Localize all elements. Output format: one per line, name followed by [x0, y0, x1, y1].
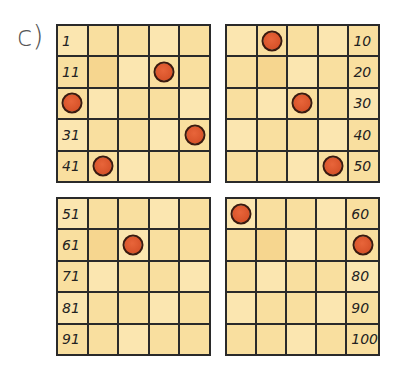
- grid-cell[interactable]: [119, 230, 148, 259]
- grid-cell[interactable]: [257, 199, 285, 228]
- grid-cell[interactable]: [180, 152, 209, 181]
- grid-cell[interactable]: [180, 57, 209, 86]
- grid-cell[interactable]: [150, 199, 179, 228]
- grid-cell[interactable]: [119, 325, 148, 354]
- grid-cell[interactable]: 80: [347, 262, 378, 291]
- grid-cell[interactable]: [119, 26, 148, 55]
- grid-cell[interactable]: [317, 230, 345, 259]
- grid-cell[interactable]: [180, 230, 209, 259]
- grid-cell[interactable]: [150, 230, 179, 259]
- grid-cell[interactable]: [180, 89, 209, 118]
- grid-cell[interactable]: 50: [349, 152, 378, 181]
- grid-cell[interactable]: [89, 230, 118, 259]
- grid-cell[interactable]: [89, 120, 118, 149]
- grid-cell[interactable]: [119, 89, 148, 118]
- grid-cell[interactable]: [227, 293, 255, 322]
- grid-cell[interactable]: [317, 325, 345, 354]
- grid-cell[interactable]: [319, 120, 348, 149]
- grid-cell[interactable]: [150, 57, 179, 86]
- grid-cell[interactable]: [288, 89, 317, 118]
- grid-cell[interactable]: [119, 293, 148, 322]
- grid-cell[interactable]: [288, 152, 317, 181]
- grid-cell[interactable]: [258, 26, 287, 55]
- grid-cell[interactable]: [227, 26, 256, 55]
- grid-cell[interactable]: [89, 152, 118, 181]
- grid-cell[interactable]: [227, 152, 256, 181]
- grid-cell[interactable]: [227, 230, 255, 259]
- grid-cell[interactable]: [319, 26, 348, 55]
- grid-cell[interactable]: [258, 57, 287, 86]
- grid-cell[interactable]: [258, 120, 287, 149]
- grid-cell[interactable]: [119, 262, 148, 291]
- grid-cell[interactable]: [347, 230, 378, 259]
- grid-cell[interactable]: [319, 57, 348, 86]
- grid-cell[interactable]: [287, 199, 315, 228]
- grid-cell[interactable]: 30: [349, 89, 378, 118]
- grid-cell[interactable]: [119, 120, 148, 149]
- grid-cell[interactable]: [227, 120, 256, 149]
- grid-cell[interactable]: [150, 120, 179, 149]
- grid-cell[interactable]: [227, 89, 256, 118]
- grid-cell[interactable]: [288, 26, 317, 55]
- grid-cell[interactable]: [180, 262, 209, 291]
- grid-cell[interactable]: [89, 26, 118, 55]
- grid-cell[interactable]: 60: [347, 199, 378, 228]
- grid-cell[interactable]: 40: [349, 120, 378, 149]
- grid-cell[interactable]: [89, 325, 118, 354]
- grid-cell[interactable]: [119, 152, 148, 181]
- grid-cell[interactable]: 61: [58, 230, 87, 259]
- grid-cell[interactable]: [180, 26, 209, 55]
- grid-cell[interactable]: 100: [347, 325, 378, 354]
- grid-cell[interactable]: [150, 152, 179, 181]
- grid-cell[interactable]: 90: [347, 293, 378, 322]
- grid-cell[interactable]: [287, 262, 315, 291]
- grid-cell[interactable]: [180, 120, 209, 149]
- grid-cell[interactable]: [288, 120, 317, 149]
- grid-cell[interactable]: 71: [58, 262, 87, 291]
- grid-cell[interactable]: [257, 325, 285, 354]
- grid-cell[interactable]: [319, 152, 348, 181]
- grid-cell[interactable]: 51: [58, 199, 87, 228]
- grid-cell[interactable]: 10: [349, 26, 378, 55]
- grid-cell[interactable]: [258, 89, 287, 118]
- grid-cell[interactable]: [227, 57, 256, 86]
- grid-cell[interactable]: [89, 262, 118, 291]
- grid-cell[interactable]: [180, 199, 209, 228]
- grid-cell[interactable]: [257, 230, 285, 259]
- grid-cell[interactable]: 31: [58, 120, 87, 149]
- grid-cell[interactable]: 20: [349, 57, 378, 86]
- grid-cell[interactable]: [258, 152, 287, 181]
- grid-cell[interactable]: [227, 199, 255, 228]
- grid-cell[interactable]: 81: [58, 293, 87, 322]
- grid-cell[interactable]: [319, 89, 348, 118]
- grid-cell[interactable]: [317, 262, 345, 291]
- grid-cell[interactable]: [89, 89, 118, 118]
- grid-cell[interactable]: [150, 293, 179, 322]
- grid-cell[interactable]: [257, 262, 285, 291]
- grid-cell[interactable]: [89, 293, 118, 322]
- grid-cell[interactable]: [89, 199, 118, 228]
- grid-cell[interactable]: [180, 293, 209, 322]
- grid-cell[interactable]: [227, 262, 255, 291]
- grid-cell[interactable]: [119, 57, 148, 86]
- grid-cell[interactable]: [317, 199, 345, 228]
- grid-cell[interactable]: [287, 325, 315, 354]
- grid-cell[interactable]: 1: [58, 26, 87, 55]
- grid-cell[interactable]: 11: [58, 57, 87, 86]
- grid-cell[interactable]: [150, 26, 179, 55]
- grid-cell[interactable]: [180, 325, 209, 354]
- grid-cell[interactable]: [119, 199, 148, 228]
- grid-cell[interactable]: [257, 293, 285, 322]
- grid-cell[interactable]: [288, 57, 317, 86]
- grid-cell[interactable]: [317, 293, 345, 322]
- grid-cell[interactable]: 91: [58, 325, 87, 354]
- grid-cell[interactable]: [287, 230, 315, 259]
- grid-cell[interactable]: [89, 57, 118, 86]
- grid-cell[interactable]: [58, 89, 87, 118]
- grid-cell[interactable]: [150, 89, 179, 118]
- grid-cell[interactable]: [287, 293, 315, 322]
- grid-cell[interactable]: [150, 262, 179, 291]
- grid-cell[interactable]: [150, 325, 179, 354]
- grid-cell[interactable]: [227, 325, 255, 354]
- grid-cell[interactable]: 41: [58, 152, 87, 181]
